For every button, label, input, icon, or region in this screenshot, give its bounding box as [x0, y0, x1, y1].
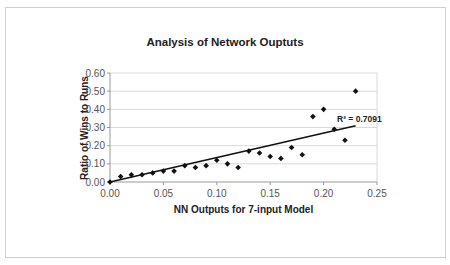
scatter-plot: 0.000.100.200.300.400.500.600.000.050.10…	[0, 0, 450, 265]
data-point-diamond	[235, 165, 241, 171]
data-point-diamond	[171, 168, 177, 174]
x-tick-label: 0.25	[367, 188, 387, 199]
data-point-diamond	[139, 172, 145, 178]
x-tick-label: 0.20	[314, 188, 334, 199]
r-squared-label: R² = 0.7091	[337, 114, 382, 124]
y-tick-label: 0.00	[86, 177, 106, 188]
data-point-diamond	[193, 165, 199, 171]
data-point-diamond	[321, 107, 327, 113]
data-point-diamond	[107, 179, 113, 185]
y-tick-label: 0.60	[86, 68, 106, 79]
data-point-diamond	[267, 154, 273, 160]
x-tick-label: 0.10	[207, 188, 227, 199]
x-tick-label: 0.15	[260, 188, 280, 199]
data-point-diamond	[278, 156, 284, 162]
x-tick-label: 0.00	[100, 188, 120, 199]
y-tick-label: 0.40	[86, 104, 106, 115]
data-point-diamond	[353, 88, 359, 94]
data-point-diamond	[299, 152, 305, 158]
y-tick-label: 0.30	[86, 122, 106, 133]
trendline	[110, 126, 356, 182]
x-tick-label: 0.05	[154, 188, 174, 199]
data-point-diamond	[257, 150, 263, 156]
y-tick-label: 0.10	[86, 158, 106, 169]
data-point-diamond	[342, 137, 348, 143]
data-point-diamond	[225, 161, 231, 167]
data-point-diamond	[310, 114, 316, 120]
y-tick-label: 0.50	[86, 86, 106, 97]
y-tick-label: 0.20	[86, 140, 106, 151]
